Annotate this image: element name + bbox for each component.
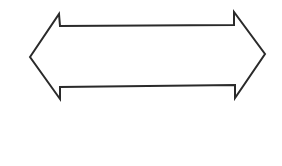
double-arrow-svg [0, 0, 282, 166]
double-headed-arrow-icon [30, 12, 265, 99]
diagram-canvas [0, 0, 282, 166]
